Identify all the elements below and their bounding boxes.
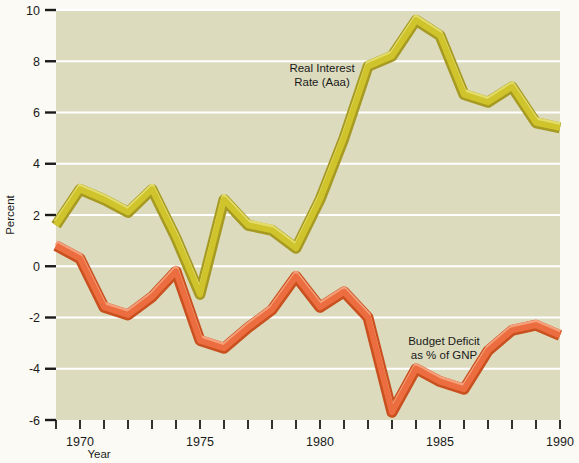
y-tick-label-0: 0 [33, 260, 40, 274]
series-label-real-interest-rate-line2: Rate (Aaa) [294, 76, 350, 88]
x-tick-label-1980: 1980 [306, 435, 334, 449]
y-tick-label-8: 8 [33, 55, 40, 69]
series-label-budget-deficit-line2: as % of GNP [411, 349, 478, 361]
x-axis-title: Year [87, 448, 110, 460]
y-tick-label-6: 6 [33, 106, 40, 120]
series-label-real-interest-rate-line1: Real Interest [289, 62, 355, 74]
y-tick-label-4: 4 [33, 157, 40, 171]
series-label-budget-deficit-line1: Budget Deficit [408, 335, 480, 347]
chart-figure: 1086420-2-4-6 19701975198019851990 Perce… [0, 0, 579, 463]
x-tick-label-1970: 1970 [66, 435, 94, 449]
interest-rate-deficit-line-chart: 1086420-2-4-6 19701975198019851990 Perce… [0, 0, 579, 463]
y-tick-label--4: -4 [29, 362, 40, 376]
y-tick-label-2: 2 [33, 209, 40, 223]
y-axis-title: Percent [4, 194, 16, 234]
y-tick-label--6: -6 [29, 414, 40, 428]
x-tick-label-1990: 1990 [546, 435, 574, 449]
y-tick-label-10: 10 [26, 4, 40, 18]
x-tick-label-1975: 1975 [186, 435, 214, 449]
y-tick-label--2: -2 [29, 311, 40, 325]
x-tick-label-1985: 1985 [426, 435, 454, 449]
